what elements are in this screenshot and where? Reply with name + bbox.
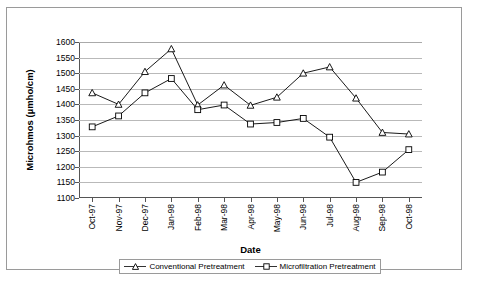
plot-area: 1100115012001250130013501400145015001550… — [79, 42, 422, 198]
chart-legend: Conventional Pretreatment Microfiltratio… — [119, 259, 381, 274]
square-marker-icon — [327, 134, 333, 140]
x-axis-tick-label: Jul-98 — [325, 204, 335, 227]
x-axis-tick-label: Oct-98 — [404, 204, 414, 230]
x-axis-tick-label: Feb-98 — [193, 204, 203, 231]
x-axis-tick-mark — [92, 198, 93, 202]
x-axis-tick-mark — [171, 198, 172, 202]
square-marker-icon — [168, 76, 174, 82]
y-axis-title: Microhmos (µmho/cm) — [24, 69, 35, 171]
x-axis-tick-label: May-98 — [272, 204, 282, 232]
series-line — [92, 79, 409, 183]
legend-label-conventional: Conventional Pretreatment — [149, 262, 244, 271]
triangle-marker-icon — [89, 89, 96, 95]
x-axis-tick-mark — [198, 198, 199, 202]
y-axis-tick-label: 1300 — [35, 131, 75, 141]
y-axis-tick-label: 1350 — [35, 115, 75, 125]
y-axis-tick-label: 1250 — [35, 146, 75, 156]
x-axis-tick-label: Mar-98 — [219, 204, 229, 231]
y-axis-tick-label: 1200 — [35, 162, 75, 172]
x-axis-tick-label: Sep-98 — [377, 204, 387, 231]
x-axis-tick-mark — [303, 198, 304, 202]
y-axis-tick-label: 1450 — [35, 84, 75, 94]
x-axis-tick-mark — [330, 198, 331, 202]
x-axis-title: Date — [79, 244, 422, 255]
square-marker-icon — [221, 102, 227, 108]
square-marker-icon — [142, 90, 148, 96]
x-axis-tick-label: Dec-97 — [140, 204, 150, 231]
x-axis-tick-label: Aug-98 — [351, 204, 361, 231]
x-axis-tick-mark — [251, 198, 252, 202]
y-axis-tick-label: 1400 — [35, 99, 75, 109]
square-marker-icon — [406, 147, 412, 153]
legend-item-microfiltration: Microfiltration Pretreatment — [255, 262, 376, 271]
square-marker-icon — [89, 124, 95, 130]
chart-plot-frame: Microhmos (µmho/cm) 11001150120012501300… — [6, 7, 462, 270]
legend-label-microfiltration: Microfiltration Pretreatment — [280, 262, 376, 271]
triangle-marker-icon — [247, 102, 254, 108]
y-axis-tick-mark — [75, 198, 79, 199]
x-axis-tick-mark — [409, 198, 410, 202]
triangle-marker-icon — [168, 45, 175, 51]
square-marker-icon — [195, 107, 201, 113]
x-axis-tick-mark — [145, 198, 146, 202]
x-axis-tick-label: Jun-98 — [298, 204, 308, 230]
y-axis-tick-label: 1100 — [35, 193, 75, 203]
chart-figure: Microhmos (µmho/cm) 11001150120012501300… — [0, 0, 480, 286]
x-axis-tick-mark — [224, 198, 225, 202]
square-marker-icon — [274, 120, 280, 126]
triangle-marker-icon — [221, 82, 228, 88]
triangle-marker-icon — [326, 64, 333, 70]
square-marker-icon — [380, 169, 386, 175]
y-axis-tick-label: 1150 — [35, 177, 75, 187]
x-axis-tick-label: Apr-98 — [246, 204, 256, 230]
y-axis-tick-label: 1550 — [35, 53, 75, 63]
x-axis-tick-mark — [119, 198, 120, 202]
x-axis-tick-mark — [356, 198, 357, 202]
y-axis-tick-label: 1600 — [35, 37, 75, 47]
x-axis-tick-mark — [277, 198, 278, 202]
square-marker-icon — [116, 113, 122, 119]
data-series-layer — [79, 42, 422, 198]
x-axis-tick-mark — [382, 198, 383, 202]
legend-item-conventional: Conventional Pretreatment — [124, 262, 244, 271]
triangle-marker-icon — [124, 263, 146, 271]
square-marker-icon — [353, 180, 359, 186]
y-axis-tick-label: 1500 — [35, 68, 75, 78]
square-marker-icon — [255, 263, 277, 271]
x-axis-tick-label: Jan-98 — [166, 204, 176, 230]
x-axis-tick-label: Oct-97 — [87, 204, 97, 230]
square-marker-icon — [300, 116, 306, 122]
x-axis-tick-label: Nov-97 — [114, 204, 124, 231]
square-marker-icon — [248, 121, 254, 127]
